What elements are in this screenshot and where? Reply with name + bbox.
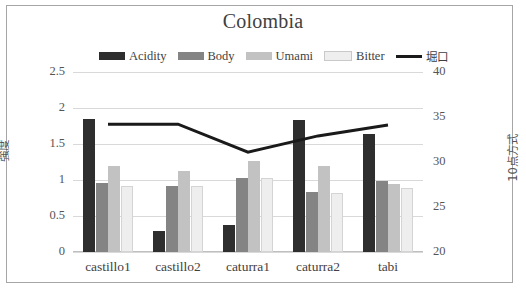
legend-item-label: 堀口 xyxy=(426,48,448,64)
bar xyxy=(376,181,388,252)
y-tick-left: 0 xyxy=(25,244,65,259)
page-title: Colombia xyxy=(0,10,526,33)
x-category-label: tabi xyxy=(353,259,423,275)
y-tick-left: 2.5 xyxy=(25,64,65,79)
legend-line-swatch xyxy=(396,55,422,58)
bar xyxy=(236,178,248,252)
legend-item-1: Body xyxy=(178,49,235,64)
y-tick-right: 25 xyxy=(433,199,473,214)
bar xyxy=(83,119,95,252)
legend-item-4: 堀口 xyxy=(396,48,448,64)
y-tick-left: 2 xyxy=(25,100,65,115)
y-tick-right: 20 xyxy=(433,244,473,259)
bar xyxy=(261,178,273,252)
legend-item-3: Bitter xyxy=(324,49,384,64)
y-tick-right: 40 xyxy=(433,64,473,79)
legend-item-label: Umami xyxy=(276,49,314,64)
chart-screenshot: Colombia AcidityBodyUmamiBitter堀口 強度 10点… xyxy=(0,0,526,291)
legend-bar-swatch xyxy=(99,52,125,60)
x-category-label: caturra1 xyxy=(213,259,283,275)
legend-bar-swatch xyxy=(178,52,204,60)
y-tick-left: 1.5 xyxy=(25,136,65,151)
bar xyxy=(96,183,108,252)
legend-item-0: Acidity xyxy=(99,49,167,64)
bar xyxy=(108,166,120,252)
bar xyxy=(223,225,235,252)
bar xyxy=(388,184,400,252)
x-category-label: castillo1 xyxy=(73,259,143,275)
legend-item-2: Umami xyxy=(246,49,314,64)
bar xyxy=(318,166,330,252)
gridline xyxy=(73,72,423,73)
legend-bar-swatch xyxy=(324,51,352,61)
bar xyxy=(306,192,318,252)
plot-area xyxy=(73,72,423,252)
y-axis-title-right: 10点方式 xyxy=(504,134,520,182)
legend-bar-swatch xyxy=(246,52,272,60)
bar xyxy=(166,186,178,252)
bar xyxy=(121,186,133,252)
y-tick-left: 1 xyxy=(25,172,65,187)
legend-item-label: Body xyxy=(208,49,235,64)
bar xyxy=(178,171,190,252)
bar xyxy=(363,134,375,252)
bar xyxy=(331,193,343,252)
gridline xyxy=(73,108,423,109)
legend-item-label: Bitter xyxy=(356,49,384,64)
bar xyxy=(248,161,260,252)
x-category-label: caturra2 xyxy=(283,259,353,275)
line-path xyxy=(108,124,388,152)
bar xyxy=(401,188,413,252)
y-axis-title-left: 強度 xyxy=(0,140,11,162)
y-tick-left: 0.5 xyxy=(25,208,65,223)
bar xyxy=(153,231,165,252)
y-tick-right: 35 xyxy=(433,109,473,124)
chart-legend: AcidityBodyUmamiBitter堀口 xyxy=(99,48,429,64)
x-category-label: castillo2 xyxy=(143,259,213,275)
legend-item-label: Acidity xyxy=(129,49,167,64)
gridline xyxy=(73,252,423,253)
bar xyxy=(293,120,305,252)
bar xyxy=(191,186,203,252)
y-tick-right: 30 xyxy=(433,154,473,169)
